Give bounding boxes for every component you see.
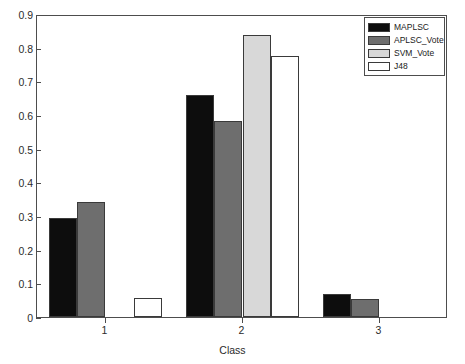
x-axis-tick-label: 1 — [85, 325, 125, 336]
bar-aplsc-vote-class-2 — [214, 121, 242, 317]
legend-item-aplsc-vote: APLSC_Vote — [368, 34, 441, 46]
legend-swatch-icon — [368, 62, 390, 71]
bar-maplsc-class-1 — [49, 218, 77, 317]
chart-legend: MAPLSCAPLSC_VoteSVM_VoteJ48 — [364, 17, 445, 76]
bar-svm-vote-class-2 — [243, 35, 271, 317]
legend-item-label: SVM_Vote — [394, 49, 434, 58]
y-axis-tick-label: 0.4 — [3, 178, 33, 189]
legend-item-j48: J48 — [368, 60, 441, 72]
bar-j48-class-2 — [271, 56, 299, 317]
legend-swatch-icon — [368, 36, 390, 45]
bar-maplsc-class-3 — [323, 294, 351, 317]
x-axis-tick-mark — [242, 318, 243, 323]
bar-j48-class-1 — [134, 298, 162, 317]
legend-item-svm-vote: SVM_Vote — [368, 47, 441, 59]
bar-maplsc-class-2 — [186, 95, 214, 317]
legend-item-maplsc: MAPLSC — [368, 21, 441, 33]
y-axis-tick-label: 0.5 — [3, 144, 33, 155]
y-axis-tick-labels: 00.10.20.30.40.50.60.70.80.9 — [0, 0, 33, 364]
chart-figure: 00.10.20.30.40.50.60.70.80.9 123 Class M… — [0, 0, 465, 364]
y-axis-tick-label: 0.1 — [3, 279, 33, 290]
legend-item-label: APLSC_Vote — [394, 36, 444, 45]
y-axis-tick-mark — [36, 318, 41, 319]
y-axis-tick-label: 0.3 — [3, 212, 33, 223]
x-axis-title: Class — [0, 345, 465, 356]
x-axis-tick-mark — [379, 318, 380, 323]
y-axis-tick-label: 0.7 — [3, 77, 33, 88]
x-axis-tick-mark — [105, 318, 106, 323]
y-axis-tick-label: 0.6 — [3, 111, 33, 122]
legend-item-label: MAPLSC — [394, 23, 429, 32]
x-axis-tick-label: 2 — [222, 325, 262, 336]
y-axis-tick-label: 0.8 — [3, 43, 33, 54]
legend-item-label: J48 — [394, 62, 408, 71]
x-axis-tick-label: 3 — [359, 325, 399, 336]
y-axis-tick-label: 0.9 — [3, 10, 33, 21]
legend-swatch-icon — [368, 23, 390, 32]
y-axis-tick-label: 0.2 — [3, 245, 33, 256]
legend-swatch-icon — [368, 49, 390, 58]
y-axis-tick-label: 0 — [3, 313, 33, 324]
bar-aplsc-vote-class-1 — [77, 202, 105, 317]
bar-aplsc-vote-class-3 — [351, 299, 379, 317]
